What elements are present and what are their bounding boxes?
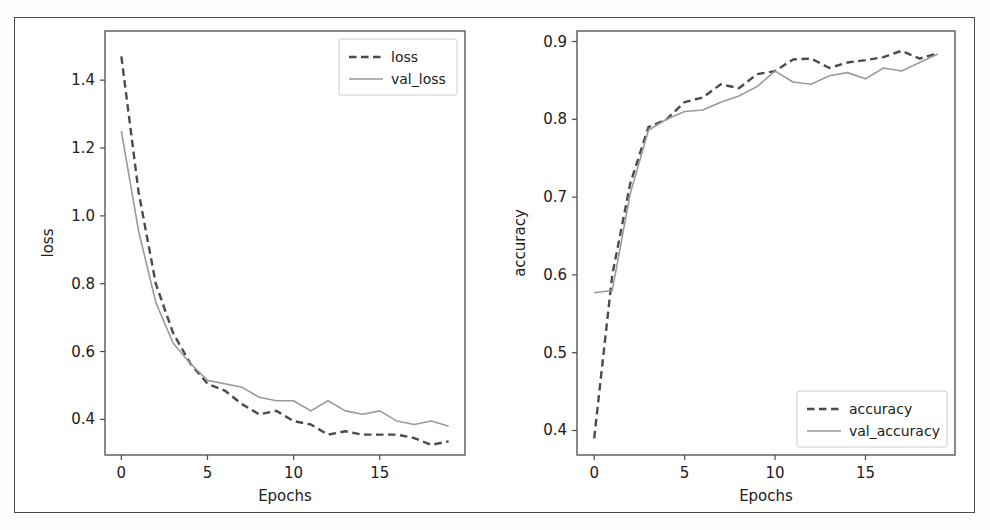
y-tick-label: 1.2 bbox=[71, 139, 95, 157]
x-tick-label: 10 bbox=[765, 464, 784, 482]
legend-label-loss: loss bbox=[391, 49, 418, 65]
x-tick-label: 5 bbox=[680, 464, 690, 482]
loss-axes: 0510150.40.60.81.01.21.4Epochslosslossva… bbox=[39, 31, 465, 505]
x-axis-label: Epochs bbox=[739, 487, 793, 505]
y-axis-label: accuracy bbox=[511, 209, 529, 277]
y-tick-label: 0.9 bbox=[543, 33, 567, 51]
x-tick-label: 10 bbox=[284, 464, 303, 482]
figure-page: 0510150.40.60.81.01.21.4Epochslosslossva… bbox=[0, 0, 990, 530]
legend-label-val_loss: val_loss bbox=[391, 71, 446, 87]
y-tick-label: 0.7 bbox=[543, 188, 567, 206]
accuracy-axes: 0510150.40.50.60.70.80.9Epochsaccuracyac… bbox=[511, 31, 955, 505]
x-tick-label: 0 bbox=[117, 464, 127, 482]
legend-accuracy-axes: accuracyval_accuracy bbox=[797, 391, 947, 447]
y-tick-label: 0.4 bbox=[543, 421, 567, 439]
y-axis-label: loss bbox=[39, 228, 57, 257]
y-tick-label: 1.4 bbox=[71, 71, 95, 89]
x-tick-label: 0 bbox=[589, 464, 599, 482]
y-tick-label: 0.8 bbox=[543, 110, 567, 128]
y-tick-label: 0.4 bbox=[71, 410, 95, 428]
x-axis-label: Epochs bbox=[258, 487, 312, 505]
y-tick-label: 1.0 bbox=[71, 207, 95, 225]
x-tick-label: 5 bbox=[203, 464, 213, 482]
y-tick-label: 0.5 bbox=[543, 344, 567, 362]
matplotlib-figure: 0510150.40.60.81.01.21.4Epochslosslossva… bbox=[0, 0, 990, 530]
y-tick-label: 0.6 bbox=[71, 343, 95, 361]
y-tick-label: 0.8 bbox=[71, 275, 95, 293]
x-tick-label: 15 bbox=[856, 464, 875, 482]
legend-label-accuracy: accuracy bbox=[849, 401, 912, 417]
x-tick-label: 15 bbox=[370, 464, 389, 482]
legend-loss-axes: lossval_loss bbox=[339, 39, 457, 95]
legend-label-val_accuracy: val_accuracy bbox=[849, 423, 940, 439]
y-tick-label: 0.6 bbox=[543, 266, 567, 284]
